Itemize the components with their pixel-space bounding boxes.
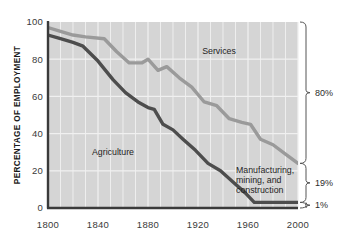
manufacturing-annotation-line-3: construction (236, 185, 284, 195)
manufacturing-annotation-line-1: Manufacturing, (236, 165, 294, 175)
manufacturing-bracket: 19% (300, 163, 333, 202)
y-tick-40: 40 (32, 128, 43, 139)
x-axis-tick-labels: 180018401880192019602000 (37, 219, 309, 230)
chart-canvas: 020406080100 180018401880192019602000 PE… (0, 0, 354, 250)
manufacturing-bracket-path (300, 163, 310, 202)
services-bracket-value: 80% (315, 88, 333, 98)
y-tick-0: 0 (38, 202, 43, 213)
x-tick-1800: 1800 (37, 219, 59, 230)
employment-share-chart-figure: 020406080100 180018401880192019602000 PE… (0, 0, 354, 250)
x-tick-1960: 1960 (237, 219, 259, 230)
y-tick-60: 60 (32, 91, 43, 102)
x-tick-1880: 1880 (137, 219, 159, 230)
x-tick-1840: 1840 (87, 219, 109, 230)
services-bracket-path (300, 22, 310, 163)
x-tick-1920: 1920 (187, 219, 209, 230)
services-bracket: 80% (300, 22, 333, 163)
services-annotation-label: Services (202, 46, 236, 56)
agriculture-bracket-value: 1% (315, 200, 328, 210)
y-tick-20: 20 (32, 165, 43, 176)
manufacturing-bracket-value: 19% (315, 178, 333, 188)
manufacturing-annotation-line-2: mining, and (236, 175, 282, 185)
y-tick-100: 100 (27, 16, 43, 27)
y-tick-80: 80 (32, 54, 43, 65)
y-axis-title: PERCENTAGE OF EMPLOYMENT (13, 46, 22, 184)
x-tick-2000: 2000 (287, 219, 309, 230)
right-side-brackets: 80%19%1% (300, 22, 333, 210)
agriculture-bracket-path (300, 202, 310, 208)
y-axis-tick-labels: 020406080100 (27, 16, 43, 213)
agriculture-annotation-label: Agriculture (92, 147, 134, 157)
